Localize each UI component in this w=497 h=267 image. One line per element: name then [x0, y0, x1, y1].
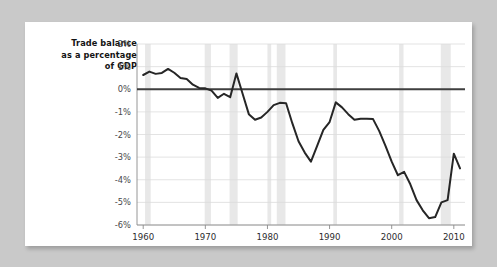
x-tick-label-2010: 2010 — [443, 232, 465, 242]
x-tick-label-1970: 1970 — [194, 232, 216, 242]
x-tick-label-2000: 2000 — [381, 232, 403, 242]
y-tick-label--3: -3% — [115, 152, 131, 162]
y-tick-label--4: -4% — [115, 175, 131, 185]
x-tick-mark-group — [143, 225, 454, 229]
figure-root: Trade balance as a percentage of GDP 2%1… — [0, 0, 497, 267]
y-tick-label--2: -2% — [115, 130, 131, 140]
x-tick-label-1960: 1960 — [132, 232, 154, 242]
y-tick-label--1: -1% — [115, 107, 131, 117]
x-tick-label-group: 196019701980199020002010 — [132, 232, 464, 242]
y-tick-label--6: -6% — [115, 220, 131, 230]
y-tick-label-group: 2%1%0%-1%-2%-3%-4%-5%-6% — [115, 39, 131, 230]
data-series-group — [143, 69, 460, 218]
x-tick-label-1990: 1990 — [319, 232, 341, 242]
y-tick-label-1: 1% — [118, 62, 131, 72]
x-tick-label-1980: 1980 — [257, 232, 279, 242]
y-tick-label--5: -5% — [115, 197, 131, 207]
y-tick-label-2: 2% — [118, 39, 131, 49]
trade-balance-line-chart: 2%1%0%-1%-2%-3%-4%-5%-6% 196019701980199… — [25, 22, 472, 246]
series-line-1 — [143, 69, 460, 218]
y-tick-label-0: 0% — [118, 84, 131, 94]
chart-panel: Trade balance as a percentage of GDP 2%1… — [25, 22, 472, 246]
